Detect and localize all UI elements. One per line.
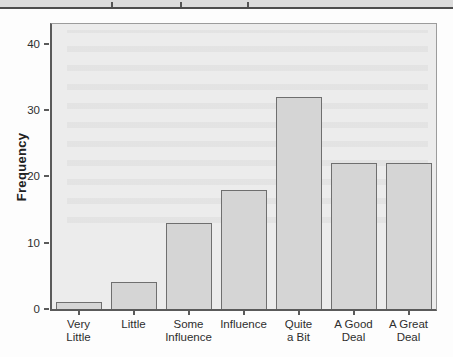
x-tick-label-line: A Good xyxy=(334,318,372,331)
x-tick-cell: Influence xyxy=(216,311,271,344)
x-tick-cell: Quitea Bit xyxy=(271,311,326,344)
bar-a-good-deal xyxy=(331,163,377,309)
y-tick-label: 20 xyxy=(27,170,40,182)
bar-slot xyxy=(271,97,326,309)
x-tick-label-line: Deal xyxy=(389,331,428,344)
x-tick-cell: VeryLittle xyxy=(51,311,106,344)
x-tick-cell: A GoodDeal xyxy=(326,311,381,344)
x-tick-mark xyxy=(353,311,355,315)
bar-slot xyxy=(381,163,436,309)
y-tick: 20 xyxy=(27,170,49,182)
x-tick-label-little: Little xyxy=(121,318,145,331)
x-tick-mark xyxy=(243,311,245,315)
bar-slot xyxy=(326,163,381,309)
cropped-axis-tick-icon xyxy=(111,2,113,7)
plot-area xyxy=(50,23,437,311)
bar-a-great-deal xyxy=(386,163,432,309)
x-tick-label-a-great-deal: A GreatDeal xyxy=(389,318,428,344)
x-tick-cell: A GreatDeal xyxy=(381,311,436,344)
bar-slot xyxy=(162,223,217,309)
x-tick-mark xyxy=(298,311,300,315)
bar-little xyxy=(111,282,157,309)
y-tick-mark xyxy=(44,308,49,310)
x-tick-cell: Little xyxy=(106,311,161,344)
x-tick-cell: SomeInfluence xyxy=(161,311,216,344)
y-tick-mark xyxy=(44,242,49,244)
x-tick-label-some-influence: SomeInfluence xyxy=(165,318,212,344)
x-tick-label-line: Influence xyxy=(165,331,212,344)
y-tick-label: 10 xyxy=(27,237,40,249)
bar-quite-a-bit xyxy=(276,97,322,309)
scanned-bar-chart-figure: Frequency 010203040 VeryLittleLittleSome… xyxy=(0,0,453,357)
bar-slot xyxy=(52,302,107,309)
y-tick: 10 xyxy=(27,237,49,249)
x-tick-label-line: Very xyxy=(66,318,90,331)
y-tick: 0 xyxy=(34,303,49,315)
bar-slot xyxy=(217,190,272,309)
x-tick-label-line: Little xyxy=(66,331,90,344)
x-tick-label-line: Quite xyxy=(285,318,313,331)
x-tick-mark xyxy=(133,311,135,315)
x-tick-mark xyxy=(78,311,80,315)
x-tick-label-influence: Influence xyxy=(220,318,267,331)
cropped-figure-edge xyxy=(0,0,453,9)
y-tick-label: 30 xyxy=(27,104,40,116)
x-tick-label-line: Influence xyxy=(220,318,267,331)
bar-slot xyxy=(107,282,162,309)
y-tick: 40 xyxy=(27,38,49,50)
y-tick-mark xyxy=(44,43,49,45)
x-tick-label-line: A Great xyxy=(389,318,428,331)
bar-very-little xyxy=(56,302,102,309)
x-tick-label-line: Little xyxy=(121,318,145,331)
y-tick: 30 xyxy=(27,104,49,116)
y-axis-ticks: 010203040 xyxy=(0,24,50,309)
x-tick-label-quite-a-bit: Quitea Bit xyxy=(285,318,313,344)
y-tick-mark xyxy=(44,109,49,111)
bar-influence xyxy=(221,190,267,309)
y-tick-label: 40 xyxy=(27,38,40,50)
y-tick-mark xyxy=(44,175,49,177)
bars-layer xyxy=(52,24,436,309)
x-tick-label-very-little: VeryLittle xyxy=(66,318,90,344)
bar-some-influence xyxy=(166,223,212,309)
x-tick-label-line: Some xyxy=(165,318,212,331)
cropped-axis-tick-icon xyxy=(180,2,182,7)
x-tick-label-line: Deal xyxy=(334,331,372,344)
y-tick-label: 0 xyxy=(34,303,40,315)
x-tick-mark xyxy=(188,311,190,315)
x-tick-label-a-good-deal: A GoodDeal xyxy=(334,318,372,344)
x-tick-label-line: a Bit xyxy=(285,331,313,344)
x-axis-labels: VeryLittleLittleSomeInfluenceInfluenceQu… xyxy=(51,311,436,344)
cropped-axis-tick-icon xyxy=(247,2,249,7)
x-tick-mark xyxy=(408,311,410,315)
